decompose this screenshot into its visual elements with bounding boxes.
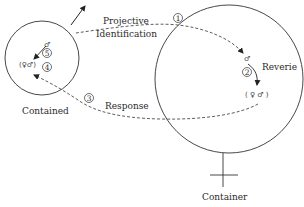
svg-text:2: 2 [245, 68, 250, 77]
reverie-label: Reverie [262, 62, 297, 72]
step-2-badge: 2 [243, 68, 252, 77]
svg-text:5: 5 [45, 49, 50, 58]
step-1-badge: 1 [174, 14, 183, 23]
step-3-badge: 3 [85, 94, 94, 103]
contained-label: Contained [22, 106, 69, 116]
contained-circle [5, 21, 79, 95]
step-5-badge: 5 [43, 49, 52, 58]
container-label: Container [202, 192, 248, 202]
male-symbol-container: ♂ [244, 55, 250, 63]
contained-arrow [71, 6, 85, 25]
step-4-badge: 4 [43, 63, 52, 72]
identification-label: Identification [96, 29, 157, 39]
containment-diagram: Contained Container Projective Identific… [0, 0, 304, 207]
pair-symbol-contained: (♀♂) [19, 61, 36, 69]
svg-text:3: 3 [87, 94, 92, 103]
pair-symbol-container: ( ♀ ♂ ) [245, 91, 269, 99]
container-circle [155, 5, 303, 153]
response-label: Response [105, 101, 149, 111]
svg-text:4: 4 [45, 63, 50, 72]
projective-label: Projective [103, 16, 149, 26]
svg-text:1: 1 [176, 14, 181, 23]
